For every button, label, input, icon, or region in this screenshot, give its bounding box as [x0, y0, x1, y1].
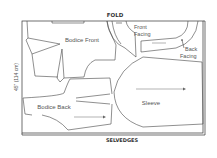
selvedges-label: SELVEDGES — [106, 137, 138, 143]
bodice-front-piece — [26, 21, 116, 82]
front-facing-label-line2: Facing — [134, 31, 151, 37]
front-facing-label-line1: Front — [134, 24, 147, 30]
pattern-layout-diagram: FOLD SELVEDGES 45" (114 cm) Bodice Front… — [0, 0, 217, 158]
sleeve-label: Sleeve — [142, 100, 161, 106]
back-facing-label-line1: Back — [185, 46, 197, 52]
fabric-frame — [22, 21, 205, 135]
bodice-back-label: Bodice Back — [37, 104, 71, 110]
back-facing-label-line2: Facing — [180, 53, 197, 59]
fold-label: FOLD — [107, 12, 124, 18]
bodice-front-label: Bodice Front — [65, 37, 99, 43]
fabric-width-label: 45" (114 cm) — [13, 63, 19, 91]
front-facing-piece — [107, 21, 136, 57]
sleeve-piece — [114, 57, 203, 127]
